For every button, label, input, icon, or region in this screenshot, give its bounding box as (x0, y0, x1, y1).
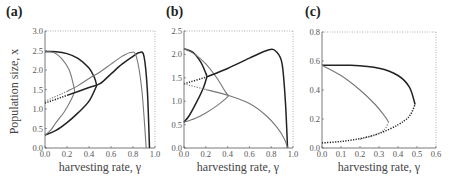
series-curve (207, 49, 288, 148)
series-curve (45, 52, 75, 92)
y-tick-label: 2.5 (171, 26, 182, 36)
y-tick-label: 2.0 (32, 65, 43, 75)
series-curve (184, 49, 229, 96)
series-curve (45, 52, 97, 86)
x-tick-label: 0.6 (431, 149, 442, 159)
series-curve-unstable (360, 122, 389, 139)
y-tick-label: 0.0 (32, 143, 43, 153)
y-tick-label: 3.0 (32, 26, 43, 36)
x-tick-label: 1.0 (150, 149, 161, 159)
panel-a-plot: 0.00.20.40.60.81.00.00.51.01.52.02.53.0 (32, 26, 160, 159)
x-tick-label: 0.2 (62, 149, 73, 159)
y-tick-label: 0.8 (309, 27, 320, 37)
series-curve (184, 96, 229, 123)
x-tick-label: 0.8 (266, 149, 277, 159)
y-tick-label: 2.0 (171, 49, 182, 59)
series-curve (322, 65, 415, 104)
y-tick-label: 1.5 (171, 73, 182, 83)
series-curve (184, 77, 207, 122)
x-tick-label: 0.4 (393, 149, 404, 159)
series-curve (322, 65, 389, 122)
y-tick-label: 1.0 (32, 104, 43, 114)
y-tick-label: 0.5 (32, 124, 43, 134)
y-tick-label: 0.4 (309, 85, 320, 95)
y-tick-label: 1.5 (32, 85, 43, 95)
x-tick-label: 0.2 (200, 149, 211, 159)
panel-c-plot: 0.00.10.20.30.40.50.60.00.20.40.60.8 (309, 27, 441, 159)
x-tick-label: 0.6 (106, 149, 117, 159)
y-tick-label: 2.5 (32, 46, 43, 56)
x-tick-label: 0.8 (128, 149, 139, 159)
x-tick-label: 0.3 (374, 149, 385, 159)
x-tick-label: 0.6 (244, 149, 255, 159)
panel-b-plot: 0.00.20.40.60.81.00.00.51.01.52.02.5 (171, 26, 298, 159)
y-tick-label: 0.0 (309, 143, 320, 153)
x-tick-label: 0.5 (412, 149, 423, 159)
x-tick-label: 0.1 (336, 149, 347, 159)
x-tick-label: 0.4 (222, 149, 233, 159)
y-tick-label: 0.2 (309, 114, 320, 124)
series-curve (67, 52, 146, 148)
chart-canvas: 0.00.20.40.60.81.00.00.51.01.52.02.53.00… (0, 0, 456, 178)
series-curve (184, 49, 207, 77)
x-tick-label: 0.4 (84, 149, 95, 159)
y-tick-label: 1.0 (171, 96, 182, 106)
series-curve-unstable (184, 77, 207, 84)
y-tick-label: 0.5 (171, 120, 182, 130)
series-curve-unstable (45, 95, 67, 103)
x-tick-label: 1.0 (288, 149, 299, 159)
x-tick-label: 0.2 (355, 149, 366, 159)
series-curve (206, 90, 288, 149)
y-tick-label: 0.0 (171, 143, 182, 153)
series-curve-unstable (184, 84, 206, 90)
y-tick-label: 0.6 (309, 56, 320, 66)
